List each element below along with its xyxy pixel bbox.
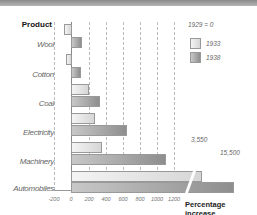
bar-coal-1938	[71, 96, 100, 107]
bar-wool-1938	[71, 37, 82, 48]
bar-automobiles-1933	[71, 171, 202, 182]
bar-machinery-1933	[71, 142, 102, 153]
x-tick: 0	[61, 196, 81, 202]
bar-electricity-1938	[71, 125, 127, 136]
category-label: Electricity	[2, 128, 54, 137]
bar-automobiles-1938	[71, 182, 234, 193]
category-label: Coal	[2, 99, 54, 108]
category-label: Automobiles	[2, 184, 54, 193]
annotation-automobiles-1938: 15,500	[220, 149, 240, 156]
category-label: Machinery	[2, 157, 54, 166]
legend-label-1938: 1938	[206, 54, 220, 61]
bar-wool-1933	[64, 24, 72, 35]
bar-cotton-1938	[71, 67, 81, 78]
axis-header-product: Product	[4, 20, 52, 29]
bar-electricity-1933	[71, 113, 95, 124]
bar-machinery-1938	[71, 154, 166, 165]
x-axis-title: Percentage increase	[185, 200, 257, 215]
legend-title: 1929 = 0	[188, 21, 213, 28]
category-label: Cotton	[2, 70, 54, 79]
bar-cotton-1933	[66, 54, 72, 65]
bar-coal-1933	[71, 84, 89, 95]
x-tick: 1200	[164, 196, 184, 202]
category-label: Wool	[2, 40, 54, 49]
annotation-automobiles-1933: 3,550	[191, 136, 207, 143]
gridline	[54, 22, 55, 190]
legend-label-1933: 1933	[206, 40, 220, 47]
legend-swatch-1938	[190, 52, 201, 63]
header-bar	[0, 0, 257, 6]
legend-swatch-1933	[190, 38, 201, 49]
gridline	[174, 22, 175, 190]
